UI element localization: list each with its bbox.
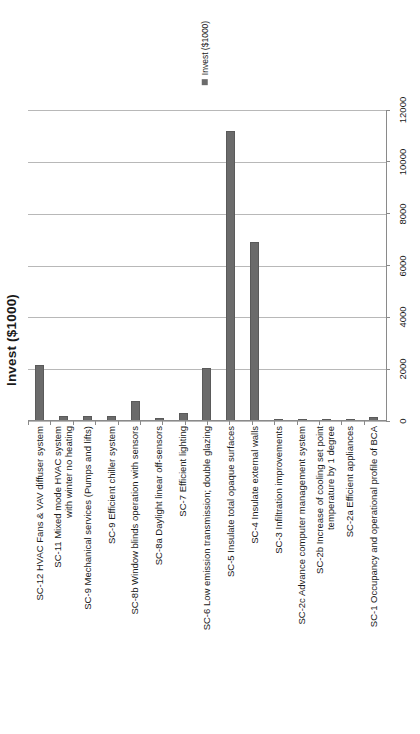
bar-slot (52, 110, 76, 421)
bar-slot (28, 110, 52, 421)
category-label-slot: SC-5 Insulate total opaque surfaces (219, 424, 243, 730)
value-tick-mark (386, 369, 390, 370)
value-tick: 2000 (386, 363, 420, 375)
category-label: SC-9 Efficient chiller system (106, 426, 117, 544)
bar-slot (123, 110, 147, 421)
value-tick-label: 6000 (397, 255, 408, 276)
category-label-slot: SC-8b Window blinds operation with senso… (123, 424, 147, 730)
category-label-slot: SC-8a Daylight linear off-sensors (147, 424, 171, 730)
bar-slot (267, 110, 291, 421)
bar-slot (338, 110, 362, 421)
value-tick-mark (386, 421, 390, 422)
bar-slot (243, 110, 267, 421)
category-label: SC-8b Window blinds operation with senso… (130, 426, 141, 615)
bar[interactable] (226, 131, 235, 421)
category-label-slot: SC-9 Mechanical services (Pumps and lift… (76, 424, 100, 730)
bar-slot (171, 110, 195, 421)
value-tick: 4000 (386, 311, 420, 323)
category-label-slot: SC-2b Increase of cooling set point temp… (314, 424, 338, 730)
value-tick-label: 10000 (397, 149, 408, 175)
bar-slot (147, 110, 171, 421)
plot-area (28, 110, 386, 421)
bar-slot (362, 110, 386, 421)
category-label: SC-9 Mechanical services (Pumps and lift… (82, 426, 93, 610)
value-tick-mark (386, 265, 390, 266)
value-tick-mark (386, 161, 390, 162)
category-label: SC-4 Insulate external walls (249, 426, 260, 544)
category-label: SC-2c Advance computer management system (297, 426, 308, 625)
category-label-slot: SC-12 HVAC Fans & VAV diffuser system (28, 424, 52, 730)
category-label-slot: SC-11 Mixed mode HVAC system with winter… (52, 424, 76, 730)
category-label: SC-5 Insulate total opaque surfaces (225, 426, 236, 577)
category-label: SC-7 Efficient lighting (178, 426, 189, 517)
legend-entry-label: Invest ($1000) (201, 21, 210, 75)
category-label-slot: SC-3 Infiltration improvements (267, 424, 291, 730)
category-label-slot: SC-2a Efficient appliances (338, 424, 362, 730)
bar-slot (100, 110, 124, 421)
category-label-slot: SC-9 Efficient chiller system (100, 424, 124, 730)
category-label: SC-8a Daylight linear off-sensors (154, 426, 165, 565)
value-tick-mark (386, 213, 390, 214)
value-tick: 6000 (386, 260, 420, 272)
value-tick-mark (386, 110, 390, 111)
category-label-slot: SC-6 Low emission transmission; double g… (195, 424, 219, 730)
category-label: SC-2a Efficient appliances (345, 426, 356, 537)
category-label: SC-11 Mixed mode HVAC system with winter… (53, 426, 75, 576)
value-tick: 8000 (386, 208, 420, 220)
bar-slot (219, 110, 243, 421)
legend-swatch-icon (202, 79, 208, 85)
bar[interactable] (35, 365, 44, 421)
category-label: SC-1 Occupancy and operational profile o… (368, 426, 379, 627)
chart-container: Invest ($1000) Invest ($1000) 0200040006… (0, 0, 420, 734)
category-label-slot: SC-4 Insulate external walls (243, 424, 267, 730)
category-label-slot: SC-7 Efficient lighting (171, 424, 195, 730)
bar[interactable] (202, 368, 211, 421)
value-tick: 0 (386, 415, 420, 427)
bar[interactable] (131, 401, 140, 421)
value-tick-mark (386, 317, 390, 318)
bar-slot (314, 110, 338, 421)
value-tick-label: 0 (397, 418, 408, 423)
category-label-slot: SC-2c Advance computer management system (290, 424, 314, 730)
category-label-slot: SC-1 Occupancy and operational profile o… (362, 424, 386, 730)
value-tick-label: 2000 (397, 359, 408, 380)
value-tick: 10000 (386, 156, 420, 168)
bar-slot (290, 110, 314, 421)
bar-slot (76, 110, 100, 421)
value-axis-title: Invest ($1000) (0, 250, 22, 430)
category-label: SC-6 Low emission transmission; double g… (201, 426, 212, 630)
value-tick-label: 12000 (397, 97, 408, 123)
bar-slot (195, 110, 219, 421)
bar-group (28, 110, 386, 421)
category-axis-labels: SC-12 HVAC Fans & VAV diffuser systemSC-… (28, 424, 386, 730)
value-tick-label: 8000 (397, 203, 408, 224)
chart-legend: Invest ($1000) (198, 8, 212, 98)
value-tick: 12000 (386, 104, 420, 116)
value-axis-ticks: 020004000600080001000012000 (386, 110, 420, 421)
category-label: SC-12 HVAC Fans & VAV diffuser system (34, 426, 45, 601)
value-tick-label: 4000 (397, 307, 408, 328)
bar[interactable] (250, 242, 259, 421)
category-label: SC-3 Infiltration improvements (273, 426, 284, 554)
category-label: SC-2b Increase of cooling set point temp… (315, 426, 337, 576)
